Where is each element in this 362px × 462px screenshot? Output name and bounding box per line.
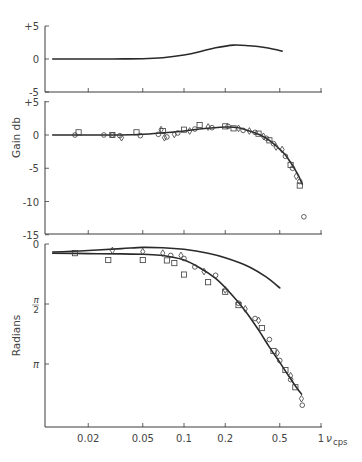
x-tick-label: 1 — [318, 433, 324, 444]
y-axis-label: Radians — [10, 315, 22, 357]
curve-line — [53, 253, 302, 394]
phase-panel: 0π2πRadians — [10, 239, 322, 427]
square-marker — [164, 258, 169, 263]
diamond-marker — [110, 247, 114, 254]
x-tick-label: 0.05 — [132, 433, 154, 444]
circle-marker — [300, 403, 305, 408]
y-axis-label: Gain db — [10, 117, 22, 158]
square-marker — [172, 261, 177, 266]
y-tick-label: +5 — [24, 97, 39, 108]
circle-marker — [267, 337, 272, 342]
square-marker — [181, 272, 186, 277]
y-tick-label: 0 — [33, 130, 39, 141]
x-axis-unit: cps — [333, 437, 348, 447]
diamond-marker — [179, 252, 183, 259]
curve-line — [53, 45, 282, 59]
y-tick-label: 0 — [33, 239, 39, 250]
x-tick-label: 0.5 — [272, 433, 288, 444]
y-tick-label: π — [34, 295, 40, 305]
bode-plot-figure: +50-5 +50-5-10-15Gain db 0π2πRadians 0.0… — [0, 0, 362, 462]
y-tick-label: 0 — [33, 54, 39, 65]
x-tick-label: 0.02 — [77, 433, 99, 444]
y-tick-label: +5 — [24, 21, 39, 32]
x-axis: 0.020.050.10.20.51νcps — [77, 432, 348, 447]
square-marker — [197, 122, 202, 127]
x-tick-label: 0.2 — [217, 433, 233, 444]
square-marker — [259, 325, 264, 330]
x-tick-label: 0.1 — [176, 433, 192, 444]
top-panel: +50-5 — [24, 21, 322, 98]
x-axis-label: ν — [326, 432, 332, 444]
square-marker — [106, 257, 111, 262]
y-tick-label: π — [33, 359, 40, 370]
square-marker — [140, 257, 145, 262]
gain-panel: +50-5-10-15Gain db — [10, 97, 322, 241]
square-marker — [206, 280, 211, 285]
circle-marker — [302, 214, 307, 219]
y-tick-label: -5 — [29, 163, 39, 174]
circle-marker — [213, 273, 218, 278]
y-tick-label: -10 — [23, 197, 39, 208]
y-tick-label: 2 — [33, 305, 39, 315]
diamond-marker — [299, 395, 303, 402]
